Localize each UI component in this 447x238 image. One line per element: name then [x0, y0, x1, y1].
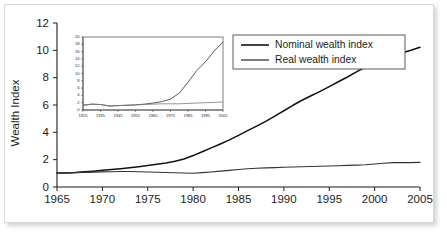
x-axis-ticks: 196519701975198019851990199520002005 [44, 187, 433, 205]
y-tick-label: 4 [43, 126, 50, 138]
inset-y-tick-label: 8 [77, 78, 80, 83]
x-tick-label: 1995 [316, 193, 342, 205]
chart-legend: Nominal wealth index Real wealth index [233, 35, 405, 69]
inset-y-tick-label: 6 [77, 85, 80, 90]
inset-y-tick-label: 10 [75, 71, 80, 76]
x-tick-label: 1975 [135, 193, 161, 205]
inset-x-tick-label: 1925 [78, 113, 88, 118]
legend-label-nominal: Nominal wealth index [275, 39, 374, 50]
inset-y-tick-label: 12 [75, 63, 80, 68]
y-tick-label: 0 [43, 181, 49, 193]
inset-x-tick-label: 1965 [148, 113, 158, 118]
inset-y-tick-label: 18 [75, 41, 80, 46]
x-tick-label: 2005 [407, 193, 433, 205]
inset-x-tick-label: 1975 [166, 113, 176, 118]
inset-x-tick-label: 1935 [96, 113, 106, 118]
x-tick-label: 2000 [362, 193, 388, 205]
y-tick-label: 8 [43, 71, 49, 83]
inset-y-tick-label: 4 [77, 92, 80, 97]
wealth-index-line-chart: 024681012 196519701975198019851990199520… [5, 5, 433, 222]
inset-chart: 02468101214161820 1925193519451955196519… [75, 34, 228, 118]
inset-y-tick-label: 2 [77, 100, 80, 105]
inset-x-axis-ticks: 192519351945195519651975198519952005 [78, 110, 228, 118]
y-tick-label: 10 [36, 44, 49, 56]
legend-label-real: Real wealth index [275, 54, 357, 65]
series-line-real-wealth-index [57, 162, 420, 173]
x-tick-label: 1970 [90, 193, 116, 205]
inset-x-tick-label: 1985 [183, 113, 193, 118]
x-tick-label: 1980 [180, 193, 206, 205]
inset-x-tick-label: 1955 [131, 113, 141, 118]
inset-y-tick-label: 14 [75, 56, 80, 61]
inset-y-tick-label: 0 [77, 107, 80, 112]
chart-stage: 024681012 196519701975198019851990199520… [5, 5, 433, 222]
figure-card: 024681012 196519701975198019851990199520… [4, 4, 434, 223]
x-tick-label: 1965 [44, 193, 70, 205]
inset-x-tick-label: 2005 [218, 113, 228, 118]
inset-y-tick-label: 16 [75, 49, 80, 54]
inset-y-tick-label: 20 [75, 34, 80, 39]
inset-x-tick-label: 1945 [113, 113, 123, 118]
inset-y-axis-ticks: 02468101214161820 [75, 34, 83, 112]
y-tick-label: 2 [43, 153, 49, 165]
y-axis-ticks: 024681012 [36, 17, 57, 193]
y-axis-title: Wealth Index [9, 79, 21, 146]
y-tick-label: 6 [43, 99, 49, 111]
x-tick-label: 1990 [271, 193, 297, 205]
inset-x-tick-label: 1995 [201, 113, 211, 118]
x-tick-label: 1985 [226, 193, 252, 205]
y-tick-label: 12 [36, 17, 49, 29]
inset-frame [83, 37, 223, 110]
